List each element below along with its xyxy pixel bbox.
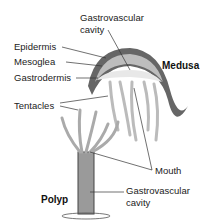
label-gastrovascular-cavity-bottom-2: cavity — [126, 198, 150, 208]
label-mesoglea: Mesoglea — [14, 57, 55, 67]
label-gastrovascular-cavity-top-2: cavity — [80, 25, 104, 35]
label-gastrovascular-cavity-bottom-1: Gastrovascular — [126, 186, 190, 196]
label-gastrovascular-cavity-top-1: Gastrovascular — [80, 13, 144, 23]
label-epidermis: Epidermis — [14, 42, 56, 52]
label-mouth: Mouth — [155, 166, 181, 176]
label-gastrodermis: Gastrodermis — [14, 73, 71, 83]
label-tentacles: Tentacles — [14, 101, 54, 111]
label-medusa: Medusa — [162, 61, 199, 71]
polyp-stalk — [78, 152, 94, 214]
label-polyp: Polyp — [41, 195, 68, 205]
